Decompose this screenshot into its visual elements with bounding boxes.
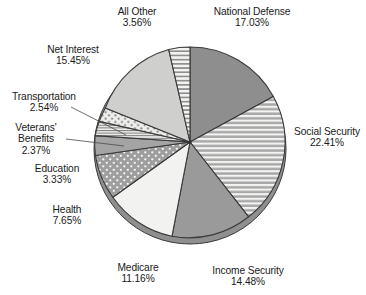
- label-national-defense-name: National Defense: [194, 6, 310, 17]
- label-all-other-pct: 3.56%: [94, 17, 180, 28]
- label-medicare: Medicare 11.16%: [104, 262, 172, 285]
- label-income-security-pct: 14.48%: [196, 276, 300, 287]
- label-transportation-pct: 2.54%: [2, 102, 86, 113]
- label-social-security-name: Social Security: [288, 126, 366, 137]
- label-health-pct: 7.65%: [38, 215, 96, 226]
- label-education-pct: 3.33%: [21, 174, 93, 185]
- label-education-name: Education: [21, 163, 93, 174]
- label-income-security: Income Security 14.48%: [196, 265, 300, 288]
- label-national-defense-pct: 17.03%: [194, 17, 310, 28]
- label-all-other: All Other 3.56%: [94, 6, 180, 29]
- label-medicare-pct: 11.16%: [104, 273, 172, 284]
- label-transportation: Transportation 2.54%: [2, 91, 86, 114]
- label-medicare-name: Medicare: [104, 262, 172, 273]
- label-net-interest: Net Interest 15.45%: [27, 44, 119, 67]
- label-net-interest-name: Net Interest: [27, 44, 119, 55]
- label-education: Education 3.33%: [21, 163, 93, 186]
- label-health-name: Health: [38, 204, 96, 215]
- label-net-interest-pct: 15.45%: [27, 55, 119, 66]
- label-social-security: Social Security 22.41%: [288, 126, 366, 149]
- pie-center-point: [188, 140, 191, 143]
- label-veterans-benefits-line1: Veterans': [5, 122, 67, 133]
- label-social-security-pct: 22.41%: [288, 137, 366, 148]
- label-veterans-benefits-pct: 2.37%: [5, 145, 67, 156]
- pie-chart-figure: All Other 3.56% National Defense 17.03% …: [0, 0, 366, 295]
- label-all-other-name: All Other: [94, 6, 180, 17]
- label-health: Health 7.65%: [38, 204, 96, 227]
- label-income-security-name: Income Security: [196, 265, 300, 276]
- label-veterans-benefits: Veterans' Benefits 2.37%: [5, 122, 67, 156]
- label-veterans-benefits-line2: Benefits: [5, 133, 67, 144]
- label-transportation-name: Transportation: [2, 91, 86, 102]
- label-national-defense: National Defense 17.03%: [194, 6, 310, 29]
